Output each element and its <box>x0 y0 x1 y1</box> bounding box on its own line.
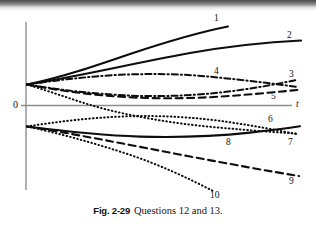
figure-caption-text: Questions 12 and 13. <box>134 205 223 216</box>
figure-caption: Fig. 2-29Questions 12 and 13. <box>0 205 316 216</box>
curve-label-2: 2 <box>287 31 292 41</box>
origin-label: 0 <box>13 100 18 110</box>
curve-label-10: 10 <box>210 191 220 201</box>
curve-label-1: 1 <box>214 14 219 24</box>
x-axis-label-t: t <box>296 100 299 110</box>
curve-label-3: 3 <box>289 70 294 80</box>
curve-label-8: 8 <box>226 138 231 148</box>
curve-2-path <box>27 41 301 85</box>
curve-9-path <box>27 127 299 177</box>
curve-4-path <box>27 74 298 87</box>
curve-label-4: 4 <box>214 67 219 77</box>
figure-container: 1 2 3 4 5 6 7 8 9 10 0 t Fig. 2-29Questi… <box>0 0 316 228</box>
curve-label-7: 7 <box>288 138 293 148</box>
curve-label-6: 6 <box>268 115 273 125</box>
figure-number: Fig. 2-29 <box>93 205 130 216</box>
curve-label-5: 5 <box>271 92 276 102</box>
curve-label-9: 9 <box>289 177 294 187</box>
